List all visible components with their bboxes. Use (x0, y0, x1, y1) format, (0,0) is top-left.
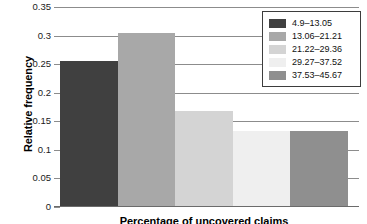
y-tick-label: 0.05 (33, 174, 52, 184)
bar (118, 33, 176, 206)
legend-item: 29.27–37.52 (269, 56, 355, 68)
legend-label: 13.06–21.21 (292, 32, 342, 41)
legend-item: 4.9–13.05 (269, 17, 355, 29)
legend-label: 4.9–13.05 (292, 19, 332, 28)
y-tick-label: 0.1 (38, 145, 51, 155)
legend-swatch-icon (269, 45, 286, 54)
legend-item: 37.53–45.67 (269, 69, 355, 81)
bar (175, 111, 233, 206)
bar (60, 61, 118, 206)
y-tick-label: 0.25 (33, 59, 52, 69)
bar (290, 131, 348, 206)
legend-swatch-icon (269, 71, 286, 80)
y-tick-label: 0.35 (33, 2, 52, 12)
legend-label: 37.53–45.67 (292, 71, 342, 80)
y-axis-title: Relative frequency (22, 29, 34, 179)
y-tick-label: 0.3 (38, 31, 51, 41)
y-tick-label: 0.2 (38, 88, 51, 98)
legend-item: 13.06–21.21 (269, 30, 355, 42)
legend-label: 29.27–37.52 (292, 58, 342, 67)
legend-swatch-icon (269, 58, 286, 67)
chart-legend: 4.9–13.0513.06–21.2121.22–29.3629.27–37.… (262, 11, 361, 87)
y-tick-label: 0.15 (33, 117, 52, 127)
y-tick-label: 0 (46, 202, 51, 212)
bar-chart: Relative frequency 0.350.30.250.20.150.1… (0, 0, 367, 224)
x-axis-title: Percentage of uncovered claims (60, 215, 348, 224)
x-axis-line (54, 206, 359, 207)
legend-swatch-icon (269, 32, 286, 41)
y-axis-tick (54, 207, 60, 208)
legend-item: 21.22–29.36 (269, 43, 355, 55)
legend-label: 21.22–29.36 (292, 45, 342, 54)
bar (233, 131, 291, 206)
legend-swatch-icon (269, 19, 286, 28)
